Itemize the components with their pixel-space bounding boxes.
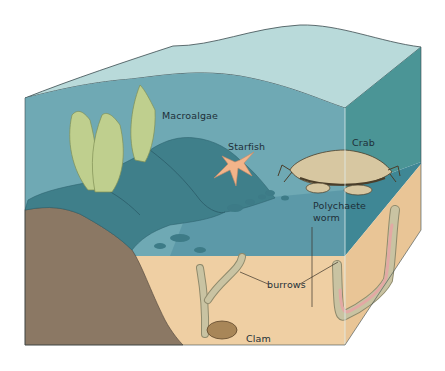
label-burrows: burrows (267, 279, 306, 290)
label-clam: Clam (246, 333, 271, 344)
habitat-diagram: Macroalgae Starfish Crab Polychaete worm… (0, 0, 445, 371)
label-crab: Crab (352, 137, 375, 148)
label-macroalgae: Macroalgae (162, 110, 218, 121)
label-starfish: Starfish (228, 141, 265, 152)
habitat-illustration (0, 0, 445, 371)
label-polychaete: Polychaete (313, 200, 366, 211)
label-worm: worm (313, 212, 340, 223)
clam-icon (207, 321, 237, 339)
